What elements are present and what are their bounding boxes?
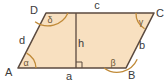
parallelogram-shape [18, 13, 154, 68]
vertex-label-A: A [5, 66, 13, 78]
side-label-b: b [139, 39, 145, 51]
side-label-a: a [66, 70, 73, 81]
side-label-c: c [94, 0, 100, 11]
vertex-label-B: B [128, 69, 135, 81]
angle-label-beta: β [110, 58, 115, 68]
angle-label-alpha: α [23, 58, 28, 68]
angle-label-gamma: γ [139, 17, 144, 27]
side-label-d: d [19, 34, 25, 46]
vertex-label-C: C [156, 7, 164, 19]
height-label-h: h [78, 37, 84, 49]
angle-label-delta: δ [47, 15, 52, 25]
parallelogram-figure: A B C D a b c d h α β γ δ [0, 0, 167, 81]
parallelogram-svg: A B C D a b c d h α β γ δ [0, 0, 167, 81]
vertex-label-D: D [30, 4, 38, 16]
